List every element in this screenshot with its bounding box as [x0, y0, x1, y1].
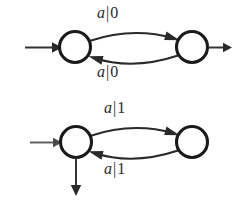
edge-label-top-forward: a|0	[97, 4, 118, 22]
edge-label-input-symbol: a	[104, 160, 112, 177]
output-arrow-top	[208, 43, 232, 52]
transition-arc-bottom-forward	[90, 127, 180, 137]
edge-label-bottom-backward: a|1	[104, 160, 125, 178]
edge-label-output-symbol: 0	[110, 63, 118, 80]
transition-arc-top-forward	[90, 32, 180, 42]
edge-label-output-symbol: 1	[117, 160, 125, 177]
transition-arc-bottom-backward	[89, 151, 179, 160]
start-arrow-top	[25, 42, 62, 52]
figure-root: a|0 a|0 a|1 a|1	[0, 0, 249, 202]
edge-label-input-symbol: a	[104, 99, 112, 116]
edge-label-input-symbol: a	[97, 4, 105, 21]
edge-label-top-backward: a|0	[97, 63, 118, 81]
output-arrow-bottom	[71, 158, 81, 196]
start-arrow-bottom	[30, 138, 62, 147]
state-node-top-right[interactable]	[177, 32, 208, 63]
state-node-top-left[interactable]	[60, 32, 91, 63]
edge-label-bottom-forward: a|1	[104, 99, 125, 117]
edge-label-output-symbol: 0	[110, 4, 118, 21]
state-node-bottom-right[interactable]	[177, 127, 208, 158]
diagram-top	[25, 32, 232, 65]
edge-label-input-symbol: a	[97, 63, 105, 80]
edge-label-output-symbol: 1	[117, 99, 125, 116]
state-node-bottom-left[interactable]	[61, 127, 92, 158]
